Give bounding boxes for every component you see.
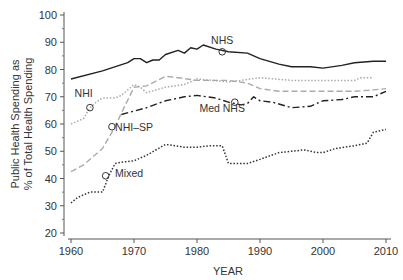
x-axis: 196019701980199020002010 bbox=[59, 239, 398, 257]
series-marker-nhi bbox=[87, 104, 94, 111]
x-tick-label: 1970 bbox=[122, 245, 146, 257]
y-tick-label: 70 bbox=[45, 91, 57, 103]
y-axis-title-line1: Public Health Spending as bbox=[9, 59, 21, 189]
y-tick-label: 80 bbox=[45, 64, 57, 76]
y-tick-label: 20 bbox=[45, 227, 57, 239]
y-tick-label: 100 bbox=[39, 9, 57, 21]
series-label-mixed: Mixed bbox=[115, 167, 143, 179]
y-tick-label: 30 bbox=[45, 200, 57, 212]
series-marker-mixed bbox=[102, 172, 109, 179]
series-marker-nhs bbox=[219, 48, 226, 55]
series-line-nhs bbox=[71, 45, 386, 79]
series-line-med-nhs bbox=[121, 91, 386, 114]
x-tick-label: 2010 bbox=[374, 245, 398, 257]
y-tick-label: 40 bbox=[45, 173, 57, 185]
series-label-nhi-sp: NHI–SP bbox=[115, 121, 153, 133]
line-chart: 2030405060708090100 19601970198019902000… bbox=[0, 0, 403, 280]
y-tick-label: 50 bbox=[45, 145, 57, 157]
x-tick-label: 1980 bbox=[185, 245, 209, 257]
y-tick-label: 90 bbox=[45, 36, 57, 48]
series-label-med-nhs: Med NHS bbox=[199, 102, 245, 114]
series-label-nhi: NHI bbox=[75, 87, 93, 99]
series-label-nhs: NHS bbox=[211, 34, 233, 46]
y-axis: 2030405060708090100 bbox=[39, 9, 64, 239]
x-axis-title: YEAR bbox=[213, 265, 243, 277]
x-tick-label: 2000 bbox=[311, 245, 335, 257]
y-tick-label: 60 bbox=[45, 118, 57, 130]
y-axis-title-line2: % of Total Health Spending bbox=[22, 58, 34, 191]
x-tick-label: 1960 bbox=[59, 245, 83, 257]
x-tick-label: 1990 bbox=[248, 245, 272, 257]
series-labels: NHSNHINHI–SPMed NHSMixed bbox=[75, 34, 245, 180]
